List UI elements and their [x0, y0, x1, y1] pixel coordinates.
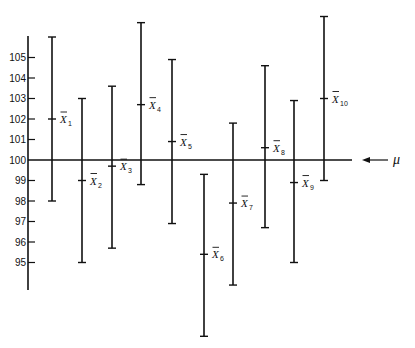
y-tick-label: 97	[15, 216, 27, 227]
mean-label: X	[148, 99, 157, 111]
arrow-left-icon	[362, 157, 370, 163]
y-axis: 9596979899100101102103104105	[9, 36, 35, 290]
mean-subscript: 4	[157, 106, 161, 113]
mean-label: X	[272, 142, 281, 154]
confidence-interval-10: X10	[320, 17, 348, 181]
y-tick-label: 103	[9, 93, 26, 104]
mean-subscript: 7	[249, 204, 253, 211]
y-tick-label: 99	[15, 175, 27, 186]
confidence-interval-6: X6	[200, 174, 224, 336]
y-tick-label: 96	[15, 237, 27, 248]
mean-subscript: 5	[188, 143, 192, 150]
mean-label: X	[179, 136, 188, 148]
mean-subscript: 9	[310, 184, 314, 191]
mean-label: X	[301, 177, 310, 189]
y-tick-label: 98	[15, 196, 27, 207]
mu-label: μ	[392, 152, 400, 167]
mean-subscript: 1	[68, 120, 72, 127]
confidence-interval-7: X7	[229, 123, 253, 285]
confidence-interval-1: X1	[48, 37, 72, 201]
confidence-intervals: X1X2X3X4X5X6X7X8X9X10	[48, 17, 348, 337]
mean-label: X	[331, 93, 340, 105]
confidence-interval-9: X9	[290, 101, 314, 263]
confidence-interval-5: X5	[168, 60, 192, 224]
y-tick-label: 95	[15, 257, 27, 268]
confidence-interval-8: X8	[261, 66, 285, 228]
mean-label: X	[89, 175, 98, 187]
y-tick-label: 100	[9, 155, 26, 166]
mean-subscript: 6	[220, 255, 224, 262]
confidence-interval-3: X3	[108, 86, 132, 248]
confidence-interval-2: X2	[78, 99, 102, 263]
mean-subscript: 2	[98, 182, 102, 189]
y-tick-label: 102	[9, 114, 26, 125]
mean-label: X	[119, 160, 128, 172]
mean-label: X	[211, 248, 220, 260]
mean-label: X	[59, 113, 68, 125]
y-tick-label: 104	[9, 73, 26, 84]
mean-label: X	[240, 197, 249, 209]
y-tick-label: 105	[9, 52, 26, 63]
y-tick-label: 101	[9, 134, 26, 145]
mu-reference-line: μ	[28, 152, 400, 167]
confidence-interval-chart: 9596979899100101102103104105 μ X1X2X3X4X…	[0, 0, 415, 348]
mean-subscript: 10	[340, 100, 348, 107]
mean-subscript: 3	[128, 167, 132, 174]
mean-subscript: 8	[281, 149, 285, 156]
